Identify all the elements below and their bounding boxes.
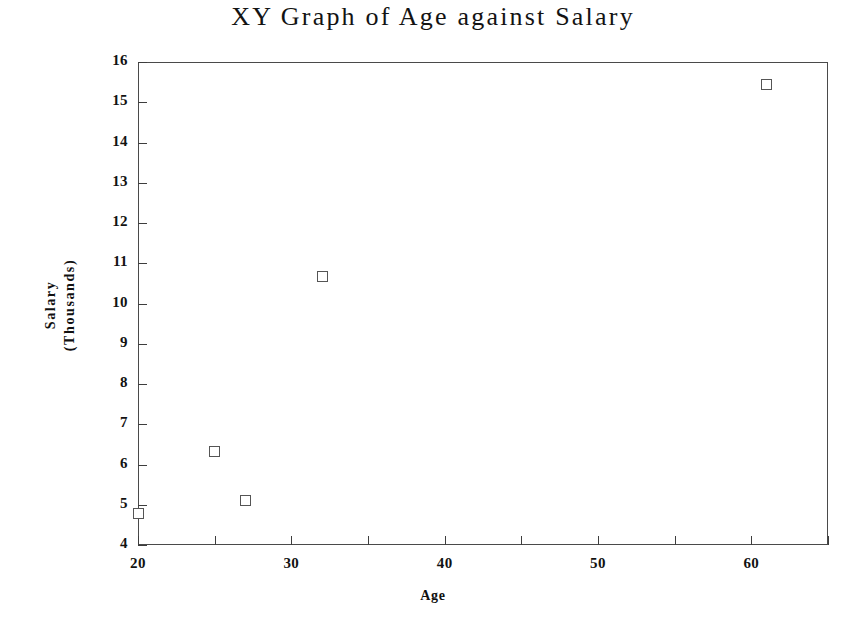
y-tick-label: 13 — [92, 173, 128, 190]
y-tick-label: 9 — [92, 334, 128, 351]
x-tick-label: 50 — [573, 555, 623, 572]
y-tick-label: 12 — [92, 213, 128, 230]
data-point-marker — [133, 508, 144, 519]
y-tick-label: 4 — [92, 535, 128, 552]
x-tick-label: 30 — [266, 555, 316, 572]
y-tick-mark — [138, 545, 147, 546]
y-tick-label: 14 — [92, 133, 128, 150]
data-point-marker — [240, 495, 251, 506]
scatter-chart: XY Graph of Age against Salary 456789101… — [0, 0, 866, 626]
y-tick-label: 15 — [92, 92, 128, 109]
data-point-marker — [209, 446, 220, 457]
y-tick-label: 5 — [92, 495, 128, 512]
y-tick-label: 10 — [92, 294, 128, 311]
y-tick-label: 8 — [92, 374, 128, 391]
y-axis-title-line-2: (Thousands) — [60, 259, 79, 351]
x-tick-label: 60 — [726, 555, 776, 572]
x-tick-label: 20 — [113, 555, 163, 572]
data-point-marker — [317, 271, 328, 282]
x-tick-mark — [828, 536, 829, 545]
x-tick-label: 40 — [420, 555, 470, 572]
data-point-marker — [761, 79, 772, 90]
y-tick-label: 11 — [92, 253, 128, 270]
y-tick-label: 7 — [92, 414, 128, 431]
y-axis-title: Salary (Thousands) — [30, 175, 90, 435]
data-points-layer — [138, 62, 828, 545]
y-tick-label: 16 — [92, 52, 128, 69]
y-tick-label: 6 — [92, 455, 128, 472]
chart-title: XY Graph of Age against Salary — [0, 2, 866, 32]
x-axis-title: Age — [0, 588, 866, 604]
y-axis-title-line-1: Salary — [41, 259, 60, 351]
